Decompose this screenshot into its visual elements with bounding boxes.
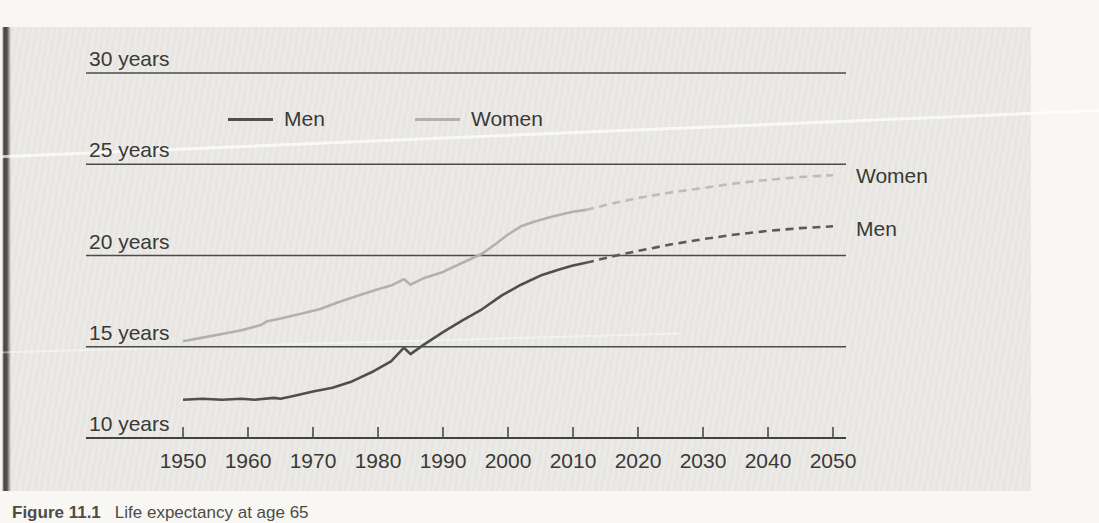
x-tick-label-1980: 1980 [355,449,402,472]
x-tick-label-2050: 2050 [810,449,857,472]
x-tick-label-2010: 2010 [550,449,597,472]
series-end-label-women: Women [856,164,928,188]
x-tick-label-1950: 1950 [160,449,207,472]
y-axis-label-30: 30 years [89,47,170,70]
legend-label-men: Men [284,107,325,131]
legend-label-women: Women [471,107,543,131]
figure-caption-text: Life expectancy at age 65 [115,503,309,522]
y-axis-label-25: 25 years [89,138,170,161]
x-tick-label-1960: 1960 [225,449,272,472]
legend-item-men: Men [228,108,325,130]
series-line-women-projected [586,175,833,210]
y-axis-label-20: 20 years [89,230,170,253]
x-tick-label-2020: 2020 [615,449,662,472]
women-line-swatch [415,118,460,121]
series-line-men-projected [586,226,833,262]
y-axis-label-10: 10 years [89,412,170,435]
x-tick-label-2000: 2000 [485,449,532,472]
figure-caption: Figure 11.1Life expectancy at age 65 [12,503,309,523]
men-line-swatch [228,118,273,121]
x-tick-label-2030: 2030 [680,449,727,472]
legend-item-women: Women [415,108,543,130]
x-tick-label-1990: 1990 [420,449,467,472]
x-tick-label-1970: 1970 [290,449,337,472]
series-line-women [183,210,586,341]
series-line-men [183,263,586,400]
x-tick-label-2040: 2040 [745,449,792,472]
series-end-label-men: Men [856,217,897,241]
y-axis-label-15: 15 years [89,321,170,344]
figure-caption-number: Figure 11.1 [12,503,101,522]
